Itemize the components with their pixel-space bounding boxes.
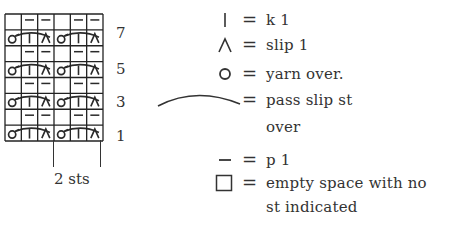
equals-sign: = <box>242 34 257 56</box>
legend-item-k1: = k 1 <box>0 9 456 31</box>
equals-sign: = <box>242 9 257 31</box>
legend-text: empty space with no <box>266 172 427 194</box>
yarn-over-icon <box>214 63 236 85</box>
legend-item-empty-line2: st indicated <box>0 196 456 218</box>
slip-icon <box>214 34 236 56</box>
equals-sign: = <box>242 63 257 85</box>
legend-text: slip 1 <box>266 34 308 56</box>
pass-slip-arc-icon <box>156 89 242 111</box>
legend-text: over <box>266 116 300 138</box>
legend-text: p 1 <box>266 149 291 171</box>
equals-sign: = <box>242 89 257 111</box>
legend-text: yarn over. <box>266 63 344 85</box>
equals-sign: = <box>242 149 257 171</box>
legend-text: pass slip st <box>266 89 353 111</box>
purl-icon <box>214 149 236 171</box>
legend-item-slip: = slip 1 <box>0 34 456 56</box>
k1-icon <box>219 9 231 31</box>
legend-item-purl: = p 1 <box>0 149 456 171</box>
legend-item-pass-slip: = pass slip st <box>0 89 456 111</box>
legend-item-yarn-over: = yarn over. <box>0 63 456 85</box>
legend-item-empty: = empty space with no <box>0 172 456 194</box>
legend-text: k 1 <box>266 9 290 31</box>
equals-sign: = <box>242 172 257 194</box>
empty-square-icon <box>213 172 235 194</box>
legend-item-pass-slip-line2: over <box>0 116 456 138</box>
legend-text: st indicated <box>266 196 358 218</box>
